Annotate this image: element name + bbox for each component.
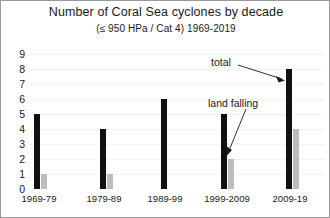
gridline-8	[29, 69, 325, 70]
y-tick-5: 5	[11, 109, 25, 119]
x-label-1969-79: 1969-79	[9, 193, 69, 204]
gridline-2	[29, 159, 325, 160]
y-tick-8: 8	[11, 64, 25, 74]
y-tick-1: 1	[11, 169, 25, 179]
gridline-5	[29, 114, 325, 115]
land-falling-bar-2009-19[interactable]	[293, 129, 299, 189]
y-tick-9: 9	[11, 49, 25, 59]
x-label-1989-99: 1989-99	[135, 193, 195, 204]
y-tick-6: 6	[11, 94, 25, 104]
land-falling-bar-1969-79[interactable]	[41, 174, 47, 189]
annotation-total: total	[211, 56, 231, 68]
x-label-1979-89: 1979-89	[74, 193, 134, 204]
y-tick-2: 2	[11, 154, 25, 164]
total-bar-1969-79[interactable]	[34, 114, 40, 189]
total-bar-1989-99[interactable]	[161, 99, 167, 189]
y-tick-7: 7	[11, 79, 25, 89]
x-label-1999-2009: 1999-2009	[191, 193, 263, 204]
total-bar-1979-89[interactable]	[100, 129, 106, 189]
annotation-land-falling: land falling	[208, 97, 258, 109]
gridline-4	[29, 129, 325, 130]
y-tick-4: 4	[11, 124, 25, 134]
gridline-6	[29, 99, 325, 100]
plot-area: 9 8 7 6 5 4 3 2 1 0	[1, 1, 330, 218]
x-label-2009-19: 2009-19	[260, 193, 320, 204]
gridline-1	[29, 174, 325, 175]
cyclone-bar-chart: Number of Coral Sea cyclones by decade (…	[0, 0, 330, 218]
land-falling-bar-1999-2009[interactable]	[228, 159, 234, 189]
gridline-3	[29, 144, 325, 145]
total-bar-2009-19[interactable]	[286, 69, 292, 189]
gridline-9	[29, 54, 325, 55]
total-bar-1999-2009[interactable]	[221, 114, 227, 189]
y-tick-3: 3	[11, 139, 25, 149]
land-falling-bar-1979-89[interactable]	[107, 174, 113, 189]
gridline-7	[29, 84, 325, 85]
